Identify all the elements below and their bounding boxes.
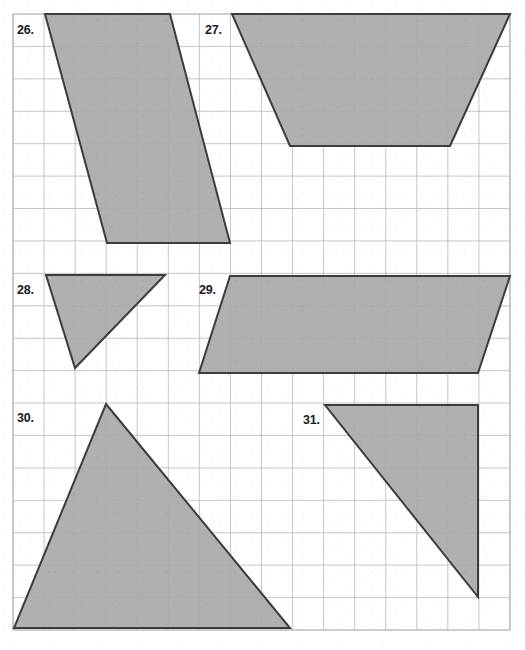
problem-number-label: 28. <box>17 283 34 297</box>
geometry-worksheet: 26.27.28.29.30.31. <box>0 0 525 650</box>
shape-parallelogram-problem-29 <box>199 276 510 373</box>
problem-number-label: 31. <box>303 413 320 427</box>
problem-number-label: 26. <box>17 23 34 37</box>
problem-number-label: 27. <box>205 23 222 37</box>
worksheet-canvas <box>0 0 525 650</box>
problem-number-label: 29. <box>199 283 216 297</box>
problem-number-label: 30. <box>17 411 34 425</box>
